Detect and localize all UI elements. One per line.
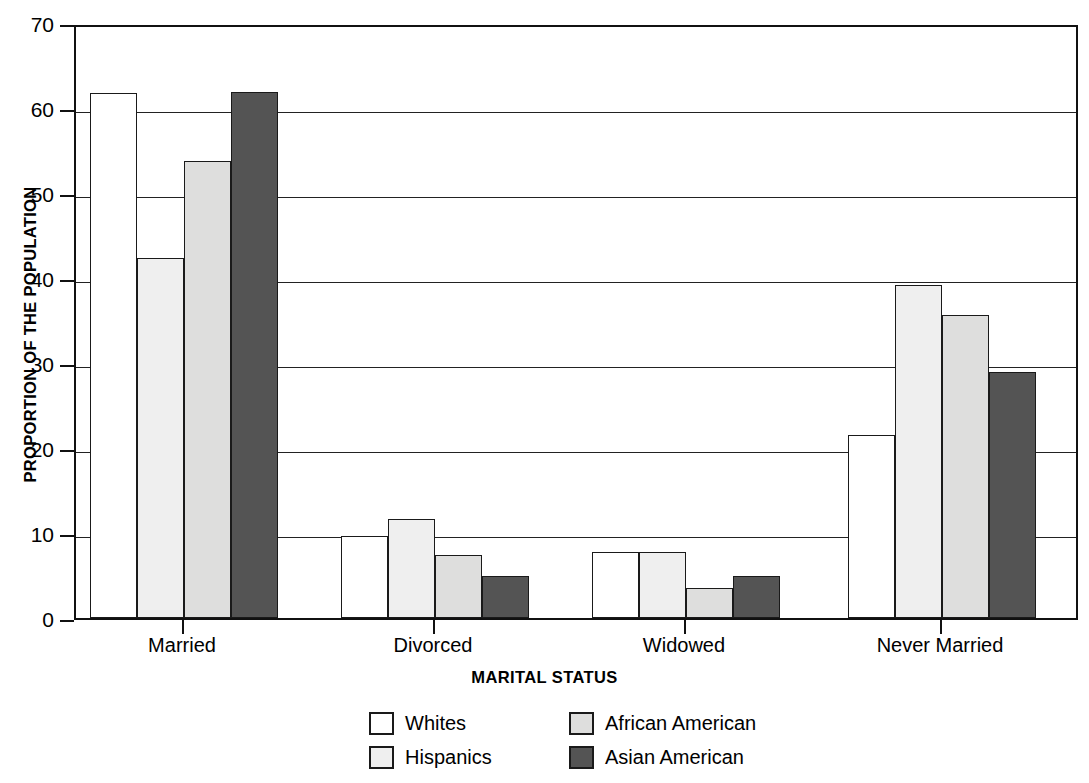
legend-item-hispanics: Hispanics — [369, 740, 569, 774]
x-tick-mark-never-married — [940, 620, 942, 634]
bar-married-african-american — [184, 161, 231, 618]
chart-legend: WhitesAfrican AmericanHispanicsAsian Ame… — [369, 706, 849, 774]
y-tick-mark-50 — [60, 195, 74, 197]
bar-married-whites — [90, 93, 137, 618]
bar-divorced-hispanics — [388, 519, 435, 618]
legend-swatch-whites — [369, 712, 394, 735]
bar-widowed-african-american — [686, 588, 733, 618]
legend-label-hispanics: Hispanics — [405, 747, 492, 767]
bar-widowed-hispanics — [639, 552, 686, 618]
bar-divorced-african-american — [435, 555, 482, 618]
x-tick-label-widowed: Widowed — [554, 634, 814, 657]
legend-label-african-american: African American — [605, 713, 756, 733]
bar-divorced-whites — [341, 536, 388, 618]
legend-label-asian-american: Asian American — [605, 747, 744, 767]
y-tick-mark-20 — [60, 450, 74, 452]
bar-never-married-whites — [848, 435, 895, 618]
bar-divorced-asian-american — [482, 576, 529, 618]
y-tick-mark-10 — [60, 535, 74, 537]
x-tick-label-divorced: Divorced — [303, 634, 563, 657]
y-tick-mark-30 — [60, 365, 74, 367]
x-tick-mark-divorced — [433, 620, 435, 634]
x-tick-mark-widowed — [684, 620, 686, 634]
y-tick-mark-40 — [60, 280, 74, 282]
bar-married-hispanics — [137, 258, 184, 618]
legend-item-asian-american: Asian American — [569, 740, 849, 774]
legend-item-whites: Whites — [369, 706, 569, 740]
legend-label-whites: Whites — [405, 713, 466, 733]
bar-widowed-asian-american — [733, 576, 780, 618]
bar-never-married-hispanics — [895, 285, 942, 618]
bar-widowed-whites — [592, 552, 639, 618]
x-tick-label-never-married: Never Married — [810, 634, 1070, 657]
legend-item-african-american: African American — [569, 706, 849, 740]
y-tick-label-0: 0 — [6, 609, 54, 630]
bar-never-married-asian-american — [989, 372, 1036, 618]
y-tick-mark-0 — [60, 620, 74, 622]
legend-swatch-asian-american — [569, 746, 594, 769]
x-tick-mark-married — [182, 620, 184, 634]
bar-never-married-african-american — [942, 315, 989, 618]
legend-swatch-african-american — [569, 712, 594, 735]
bar-chart-figure: PROPORTION OF THE POPULATION 01020304050… — [0, 0, 1089, 783]
y-tick-mark-60 — [60, 110, 74, 112]
legend-swatch-hispanics — [369, 746, 394, 769]
x-tick-label-married: Married — [52, 634, 312, 657]
x-axis-title: MARITAL STATUS — [0, 668, 1089, 687]
bars-layer — [76, 27, 1076, 618]
bar-married-asian-american — [231, 92, 278, 618]
plot-area — [74, 25, 1078, 620]
y-tick-label-70: 70 — [6, 14, 54, 35]
y-tick-mark-70 — [60, 25, 74, 27]
y-axis-title: PROPORTION OF THE POPULATION — [21, 105, 40, 565]
